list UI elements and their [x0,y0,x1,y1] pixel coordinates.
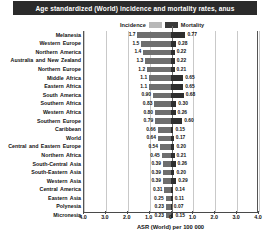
incidence-bar [163,170,171,176]
region-label: Western Asia [0,179,81,184]
incidence-value: 1.4 [134,49,141,54]
region-label: Polynesia [0,204,81,209]
mortality-value: 0.22 [177,58,187,63]
incidence-bar [162,153,171,159]
mortality-bar [171,196,173,202]
region-label: South America [0,93,81,98]
incidence-bar [163,161,171,167]
table-row: World0.640.17 [0,134,270,143]
mortality-value: 0.68 [186,92,196,97]
row-bars: 0.900.68 [83,91,258,100]
row-bars: 0.250.11 [83,194,258,203]
mortality-bar [171,118,183,124]
chart-title-bar: Age standardized (World) incidence and m… [13,1,257,15]
table-row: Middle Africa1.10.65 [0,74,270,83]
region-label: Caribbean [0,127,81,132]
incidence-value: 0.80 [143,110,153,115]
table-row: Western Asia0.390.29 [0,177,270,186]
row-bars: 0.540.20 [83,143,258,152]
table-row: South America0.900.68 [0,91,270,100]
incidence-bar [149,75,170,81]
table-row: South-Central Asia0.390.26 [0,160,270,169]
table-row: Eastern Asia0.250.11 [0,194,270,203]
region-label: Central America [0,187,81,192]
x-tick-label: 3.0 [232,214,240,220]
incidence-bar [153,93,171,99]
row-bars: 1.50.28 [83,40,258,49]
table-row: Caribbean0.660.15 [0,126,270,135]
mortality-bar [171,144,175,150]
mortality-value: 0.15 [175,127,185,132]
mortality-value: 0.22 [177,49,187,54]
region-label: Central and Eastern Europe [0,144,81,149]
table-row: Eastern Africa1.10.65 [0,83,270,92]
incidence-value: 0.64 [147,135,157,140]
incidence-value: 0.39 [151,178,161,183]
table-row: Australia and New Zealand1.30.22 [0,57,270,66]
region-label: World [0,136,81,141]
bar-rows: Melanesia1.70.77Western Europe1.50.28Nor… [0,31,270,220]
table-row: Northern Africa0.450.21 [0,151,270,160]
incidence-bar [155,118,170,124]
mortality-bar [171,93,184,99]
table-row: Southern Africa0.830.30 [0,100,270,109]
mortality-bar [171,127,174,133]
incidence-bar [149,84,170,90]
region-label: Eastern Africa [0,84,81,89]
row-bars: 1.10.65 [83,74,258,83]
region-label: South-Eastern Asia [0,170,81,175]
mortality-bar [171,161,176,167]
incidence-value: 1.1 [140,75,147,80]
chart-legend: Incidence Mortality [120,20,204,29]
mortality-value: 0.30 [178,101,188,106]
mortality-bar [171,187,174,193]
incidence-value: 0.31 [153,187,163,192]
x-tick-label: 2.0 [211,214,219,220]
region-label: Western Africa [0,110,81,115]
region-label: Southern Europe [0,119,81,124]
region-label: Australia and New Zealand [0,58,81,63]
table-row: Northern Europe1.20.21 [0,65,270,74]
row-bars: 0.640.17 [83,134,258,143]
incidence-bar [158,136,170,142]
incidence-bar [163,178,171,184]
mortality-value: 0.21 [177,153,187,158]
region-label: South-Central Asia [0,162,81,167]
mortality-value: 0.77 [187,32,197,37]
incidence-value: 0.66 [146,127,156,132]
x-tick-label: 1.0 [189,214,197,220]
incidence-value: 1.2 [138,67,145,72]
incidence-value: 1.5 [133,41,140,46]
mortality-value: 0.11 [175,196,184,201]
incidence-bar [160,144,171,150]
region-label: Southern Africa [0,101,81,106]
incidence-bar [137,32,170,38]
mortality-bar [171,178,177,184]
mortality-value: 0.17 [176,135,186,140]
legend-swatch-incidence [149,22,162,28]
incidence-value: 0.45 [150,153,160,158]
row-bars: 0.390.20 [83,169,258,178]
incidence-bar [155,110,171,116]
mortality-bar [171,153,175,159]
region-label: Northern America [0,50,81,55]
mortality-bar [171,101,177,107]
mortality-value: 0.20 [176,144,186,149]
row-bars: 0.310.14 [83,186,258,195]
mortality-bar [171,50,175,56]
incidence-bar [145,58,170,64]
incidence-value: 0.39 [151,170,161,175]
table-row: Western Africa0.800.26 [0,108,270,117]
mortality-bar [171,170,175,176]
mortality-value: 0.65 [185,75,195,80]
legend-label-mortality: Mortality [181,22,204,28]
incidence-value: 1.3 [136,58,143,63]
region-label: Northern Africa [0,153,81,158]
table-row: Southern Europe0.790.60 [0,117,270,126]
x-tick-label: 0 [169,214,172,220]
row-bars: 0.790.60 [83,117,258,126]
incidence-value: 1.1 [140,84,147,89]
mortality-value: 0.29 [178,178,188,183]
incidence-value: 1.7 [129,32,136,37]
mortality-bar [171,110,176,116]
